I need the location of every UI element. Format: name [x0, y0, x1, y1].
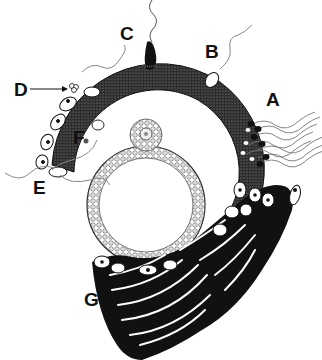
sperm-c — [143, 0, 157, 70]
arrow-d — [30, 86, 68, 92]
label-f: F — [73, 128, 85, 147]
label-b: B — [205, 42, 219, 61]
label-g: G — [84, 290, 99, 309]
acrosome-vesicles — [70, 84, 79, 93]
label-e: E — [33, 178, 46, 197]
oocyte-sperm-interaction-diagram — [0, 0, 322, 360]
oocyte — [87, 119, 205, 264]
label-c: C — [120, 24, 134, 43]
label-a: A — [266, 90, 280, 109]
label-d: D — [14, 80, 28, 99]
